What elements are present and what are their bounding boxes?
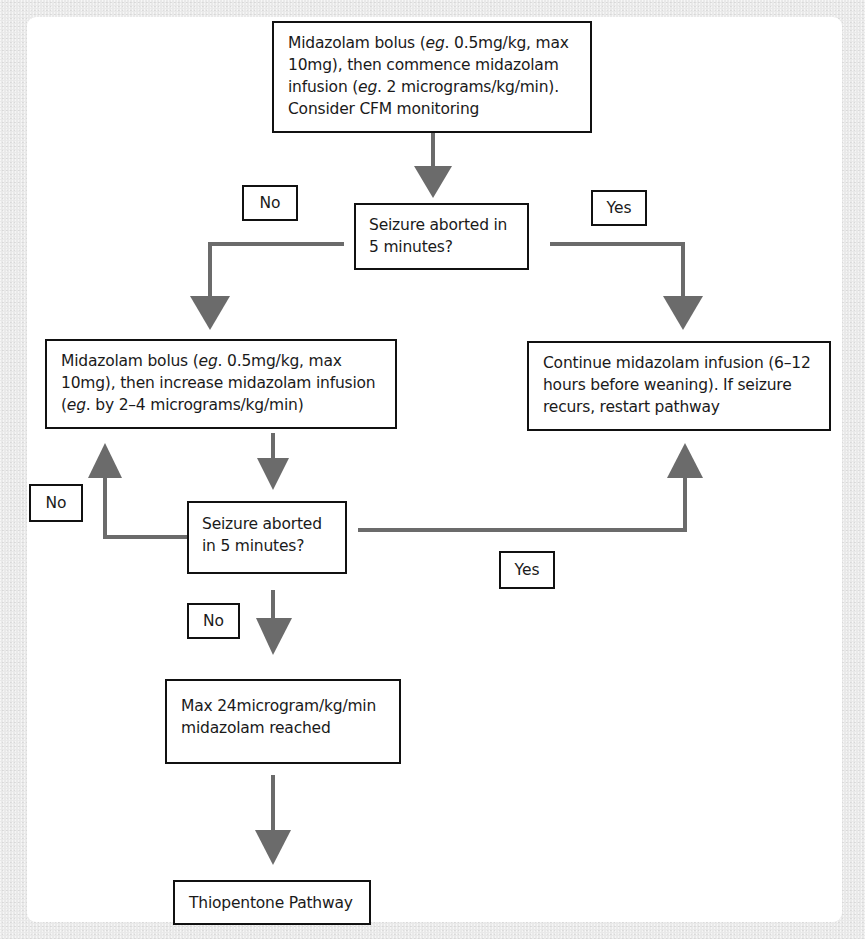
edge-label-no-loop: No xyxy=(29,484,83,522)
arrow-up-icon xyxy=(88,443,122,478)
flow-connectors xyxy=(0,0,865,939)
text: recurs, restart pathway xyxy=(543,396,819,418)
decision-node-2: Seizure aborted in 5 minutes? xyxy=(187,501,347,574)
text: . 2 micrograms/kg/min). xyxy=(377,78,559,96)
text: No xyxy=(259,194,280,212)
arrow-down-icon xyxy=(663,296,703,330)
arrow-up-icon xyxy=(667,443,703,478)
arrow-down-icon xyxy=(256,618,292,655)
text: Continue midazolam infusion (6–12 xyxy=(543,352,819,374)
increase-infusion-node: Midazolam bolus (eg. 0.5mg/kg, max 10mg)… xyxy=(45,339,397,429)
text: Consider CFM monitoring xyxy=(288,98,580,120)
text: 5 minutes? xyxy=(369,236,517,258)
text: No xyxy=(203,612,224,630)
edge-label-yes-2: Yes xyxy=(499,551,555,589)
text: eg xyxy=(199,352,218,370)
text: hours before weaning). If seizure xyxy=(543,374,819,396)
max-dose-node: Max 24microgram/kg/min midazolam reached xyxy=(165,679,401,764)
text: Thiopentone Pathway xyxy=(189,892,359,914)
text: 10mg), then commence midazolam xyxy=(288,54,580,76)
edge-label-yes: Yes xyxy=(591,190,647,226)
text: . by 2–4 micrograms/kg/min) xyxy=(86,396,304,414)
text: eg xyxy=(426,34,445,52)
edge-label-no-down: No xyxy=(187,603,240,639)
text: infusion ( xyxy=(288,78,358,96)
arrow-down-icon xyxy=(257,458,289,490)
thiopentone-pathway-node: Thiopentone Pathway xyxy=(173,880,371,925)
text: Seizure aborted xyxy=(202,513,335,535)
text: eg xyxy=(67,396,86,414)
text: midazolam reached xyxy=(181,717,389,739)
text: Yes xyxy=(606,199,631,217)
arrow-down-icon xyxy=(255,830,291,865)
arrow-down-icon xyxy=(190,296,230,330)
text: eg xyxy=(358,78,377,96)
arrow-down-icon xyxy=(414,166,452,198)
text: Max 24microgram/kg/min xyxy=(181,695,389,717)
start-node: Midazolam bolus (eg. 0.5mg/kg, max 10mg)… xyxy=(272,21,592,133)
decision-node-1: Seizure aborted in 5 minutes? xyxy=(354,203,529,270)
text: 10mg), then increase midazolam infusion xyxy=(61,372,385,394)
text: . 0.5mg/kg, max xyxy=(445,34,569,52)
text: Yes xyxy=(514,561,539,579)
text: in 5 minutes? xyxy=(202,535,335,557)
text: No xyxy=(45,494,66,512)
continue-infusion-node: Continue midazolam infusion (6–12 hours … xyxy=(527,341,831,431)
edge-label-no: No xyxy=(242,185,298,221)
text: Midazolam bolus ( xyxy=(288,34,426,52)
text: . 0.5mg/kg, max xyxy=(218,352,342,370)
text: Seizure aborted in xyxy=(369,214,517,236)
text: Midazolam bolus ( xyxy=(61,352,199,370)
